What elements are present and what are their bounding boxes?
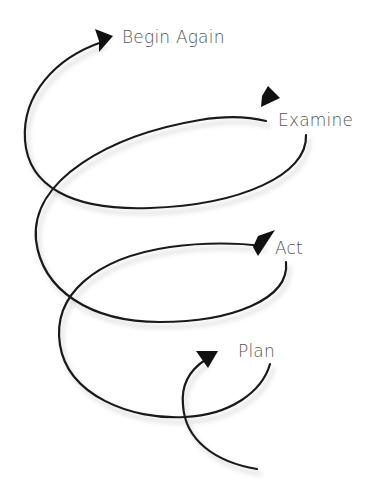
stage-label-plan: Plan — [238, 343, 275, 360]
stage-label-act: Act — [275, 240, 303, 257]
flow-plan-to-act — [59, 244, 270, 418]
stage-label-examine: Examine — [278, 112, 353, 129]
arrowhead-examine — [261, 86, 280, 107]
spiral-diagram — [0, 0, 383, 495]
shadow-layer — [28, 47, 309, 474]
stage-label-begin-again: Begin Again — [122, 29, 225, 46]
